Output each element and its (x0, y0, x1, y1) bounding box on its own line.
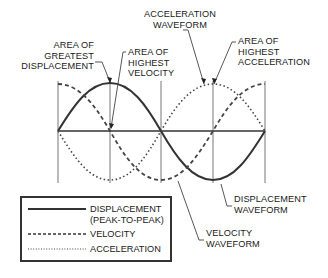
label-displacement-waveform: DISPLACEMENT WAVEFORM (234, 194, 307, 215)
label-area-highest-acceleration: AREA OF HIGHEST ACCELERATION (238, 36, 310, 68)
arrow-heads (107, 77, 217, 129)
label-acceleration-waveform: ACCELERATION WAVEFORM (130, 9, 230, 30)
label-velocity-waveform: VELOCITY WAVEFORM (206, 228, 260, 249)
label-area-highest-velocity: AREA OF HIGHEST VELOCITY (128, 47, 174, 79)
dashed-line-icon (22, 229, 90, 241)
legend-label-displacement: DISPLACEMENT (PEAK-TO-PEAK) (90, 204, 164, 225)
legend-label-velocity: VELOCITY (90, 229, 135, 240)
legend: DISPLACEMENT (PEAK-TO-PEAK) VELOCITY ACC… (20, 196, 172, 262)
legend-label-acceleration: ACCELERATION (90, 244, 161, 255)
dotted-line-icon (22, 244, 90, 256)
solid-line-icon (22, 204, 90, 216)
label-area-greatest-displacement: AREA OF GREATEST DISPLACEMENT (10, 40, 94, 72)
